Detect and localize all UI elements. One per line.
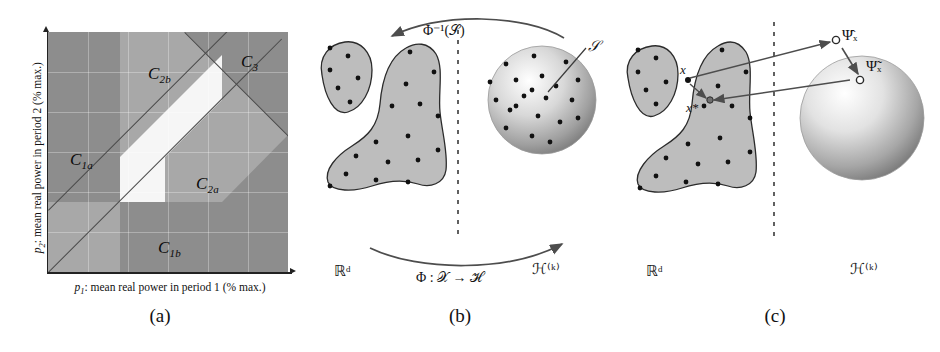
inverse-map-arrow-label: Φ⁻¹(𝒮) (423, 22, 465, 39)
panel-b-artwork (310, 0, 610, 300)
panel-b: Φ⁻¹(𝒮) Φ : 𝒳 → ℋ 𝒮 ℝᵈ ℋ⁽ᵏ⁾ (b) (310, 0, 610, 352)
figure-root: C1a C2b C3 C2a C1b p1: mean real power i… (0, 0, 940, 352)
panel-a-plot: C1a C2b C3 C2a C1b (48, 32, 288, 272)
input-point-label: x (680, 62, 686, 78)
region-label-C3: C3 (241, 52, 258, 73)
inverse-map-arrow (392, 19, 564, 38)
forward-map-arrow-label: Φ : 𝒳 → ℋ (416, 270, 483, 286)
preimage-point-x-star (707, 97, 713, 103)
small-cluster-blob (321, 42, 372, 113)
projection-marker-psi-hat (832, 36, 839, 43)
region-label-C2a: C2a (196, 174, 219, 195)
x-axis-line (48, 272, 292, 274)
preimage-point-label: x* (686, 100, 698, 116)
small-cluster-blob (627, 46, 678, 117)
panel-b-caption: (b) (310, 305, 610, 327)
projection-label-psi-hat: Ψ̂ₓ (842, 27, 857, 44)
panel-c-artwork (610, 0, 940, 300)
panel-a: C1a C2b C3 C2a C1b p1: mean real power i… (0, 0, 320, 352)
panel-a-caption: (a) (0, 305, 320, 327)
reconstruction-label-psi-tilde: Ψ̃ₓ (866, 58, 881, 75)
y-axis-label: p2: mean real power in period 2 (% max.) (31, 43, 46, 273)
x-axis-arrowhead-icon (290, 268, 296, 274)
feature-space-sphere (800, 56, 924, 180)
region-C1a-column (48, 32, 120, 202)
gridline-h (48, 232, 288, 233)
region-label-C2b: C2b (148, 64, 171, 85)
input-space-label: ℝᵈ (646, 262, 663, 280)
panel-c-caption: (c) (610, 305, 940, 327)
region-label-C1a: C1a (70, 150, 93, 171)
sphere-region-label: 𝒮 (588, 38, 600, 55)
y-axis-arrowhead-icon (43, 26, 49, 32)
input-space-label: ℝᵈ (334, 262, 351, 280)
reconstruction-marker-psi-tilde (856, 76, 863, 83)
gridline-h (48, 112, 288, 113)
y-axis-line (47, 30, 49, 274)
feature-space-label: ℋ⁽ᵏ⁾ (850, 260, 878, 278)
panel-c: x x* Ψ̂ₓ Ψ̃ₓ ℝᵈ ℋ⁽ᵏ⁾ (c) (610, 0, 940, 352)
x-axis-label: p1: mean real power in period 1 (% max.) (48, 281, 292, 296)
gridline-h (48, 192, 288, 193)
region-label-C1b: C1b (158, 238, 181, 259)
feature-space-sphere (488, 46, 596, 154)
feature-space-label: ℋ⁽ᵏ⁾ (532, 260, 560, 278)
